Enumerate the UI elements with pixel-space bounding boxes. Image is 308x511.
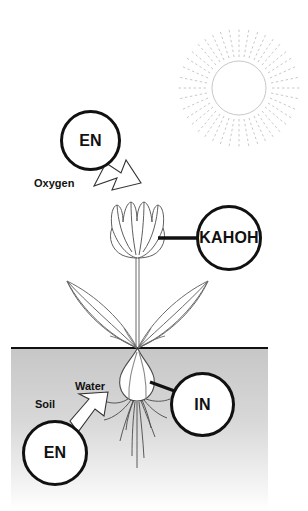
flow-label-water: Water bbox=[75, 381, 105, 392]
node-en-top-label: EN bbox=[79, 133, 102, 149]
node-en-soil-label: EN bbox=[44, 445, 67, 461]
node-in-label: IN bbox=[194, 397, 210, 413]
node-kahoh[interactable]: KAHOH bbox=[196, 205, 262, 271]
node-en-soil[interactable]: EN bbox=[22, 420, 88, 486]
flow-label-oxygen: Oxygen bbox=[34, 178, 74, 189]
node-kahoh-label: KAHOH bbox=[199, 230, 259, 246]
node-in[interactable]: IN bbox=[170, 372, 235, 437]
flow-label-soil: Soil bbox=[35, 399, 55, 410]
diagram-canvas: EN KAHOH IN EN Oxygen Water Soil bbox=[0, 0, 308, 511]
block-arrow-up-right-icon bbox=[70, 392, 108, 432]
node-en-top[interactable]: EN bbox=[60, 110, 121, 171]
